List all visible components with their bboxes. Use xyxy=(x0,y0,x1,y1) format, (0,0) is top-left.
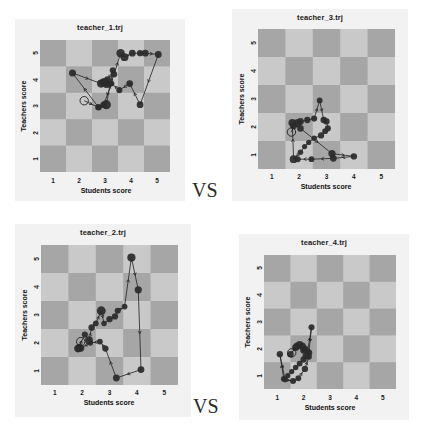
xaxis-label-teacher-3: Students score xyxy=(244,183,408,190)
xtick-2-4: 5 xyxy=(162,389,166,396)
yaxis-label-teacher-2: Teachers score xyxy=(21,275,28,355)
xtick-2-1: 2 xyxy=(80,389,84,396)
chart-title-teacher-1: teacher_1.trj xyxy=(15,23,185,32)
vs-bottom: VS xyxy=(193,396,219,416)
panel-teacher-4: teacher_4.trj 1 2 3 4 5 1 xyxy=(239,234,409,420)
yaxis-label-teacher-3: Teachers score xyxy=(238,59,245,139)
xaxis-label-teacher-4: Students score xyxy=(251,404,409,411)
chart-title-teacher-4: teacher_4.trj xyxy=(239,238,409,247)
ytick-3-3: 4 xyxy=(250,69,257,73)
ytick-2-3: 4 xyxy=(33,285,40,289)
xtick-2-3: 4 xyxy=(135,389,139,396)
xtick-1-2: 3 xyxy=(103,177,107,184)
xtick-4-2: 3 xyxy=(328,394,332,401)
plot-area-teacher-2[interactable] xyxy=(41,245,178,385)
yaxis-label-teacher-4: Teachers score xyxy=(244,282,251,362)
xtick-3-4: 5 xyxy=(379,173,383,180)
ytick-4-0: 1 xyxy=(256,374,263,378)
ytick-4-2: 3 xyxy=(256,320,263,324)
xtick-4-4: 5 xyxy=(381,394,385,401)
ytick-4-1: 2 xyxy=(256,347,263,351)
figure-canvas: teacher_1.trj 1 2 3 4 5 xyxy=(0,0,422,435)
plot-area-teacher-4[interactable] xyxy=(264,255,396,389)
trajectory-teacher-1 xyxy=(40,40,170,172)
trajectory-teacher-4 xyxy=(264,255,396,389)
plot-area-teacher-3[interactable] xyxy=(258,29,395,169)
chart-title-teacher-3: teacher_3.trj xyxy=(232,13,408,22)
xtick-4-3: 4 xyxy=(355,394,359,401)
ytick-3-2: 3 xyxy=(250,97,257,101)
chart-title-teacher-2: teacher_2.trj xyxy=(15,228,191,237)
ytick-3-0: 1 xyxy=(250,153,257,157)
xtick-3-0: 1 xyxy=(270,173,274,180)
ytick-1-0: 1 xyxy=(32,157,39,161)
xtick-2-0: 1 xyxy=(53,389,57,396)
panel-teacher-1: teacher_1.trj 1 2 3 4 5 xyxy=(15,19,185,201)
trajectory-teacher-3 xyxy=(258,29,395,169)
panel-teacher-3: teacher_3.trj 1 2 3 4 5 1 xyxy=(232,9,408,201)
ytick-2-1: 2 xyxy=(33,341,40,345)
panel-teacher-2: teacher_2.trj 1 2 3 4 5 1 xyxy=(15,224,191,417)
ytick-1-4: 5 xyxy=(32,52,39,56)
ytick-2-4: 5 xyxy=(33,257,40,261)
xtick-4-0: 1 xyxy=(275,394,279,401)
xtick-3-2: 3 xyxy=(325,173,329,180)
xaxis-label-teacher-1: Students score xyxy=(27,187,185,194)
plot-area-teacher-1[interactable] xyxy=(40,40,170,172)
xtick-1-4: 5 xyxy=(155,177,159,184)
xtick-1-1: 2 xyxy=(77,177,81,184)
trajectory-teacher-2 xyxy=(41,245,178,385)
ytick-1-2: 3 xyxy=(32,104,39,108)
xtick-2-2: 3 xyxy=(108,389,112,396)
xtick-4-1: 2 xyxy=(302,394,306,401)
ytick-2-2: 3 xyxy=(33,313,40,317)
ytick-3-1: 2 xyxy=(250,125,257,129)
ytick-1-1: 2 xyxy=(32,131,39,135)
ytick-1-3: 4 xyxy=(32,78,39,82)
ytick-4-4: 5 xyxy=(256,267,263,271)
ytick-4-3: 4 xyxy=(256,293,263,297)
ytick-3-4: 5 xyxy=(250,41,257,45)
xtick-3-1: 2 xyxy=(297,173,301,180)
xaxis-label-teacher-2: Students score xyxy=(27,399,191,406)
xtick-3-3: 4 xyxy=(352,173,356,180)
ytick-2-0: 1 xyxy=(33,369,40,373)
xtick-1-3: 4 xyxy=(129,177,133,184)
yaxis-label-teacher-1: Teachers score xyxy=(20,66,27,146)
xtick-1-0: 1 xyxy=(51,177,55,184)
vs-top: VS xyxy=(192,180,218,200)
